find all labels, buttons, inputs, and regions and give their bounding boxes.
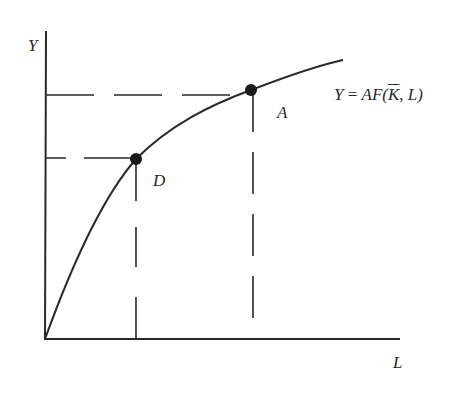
eq-equals: =	[343, 85, 361, 104]
curve-equation-label: Y = AF(K, L)	[334, 86, 423, 103]
production-function-diagram	[0, 0, 470, 396]
point-a-marker	[245, 84, 257, 96]
eq-arg: L	[408, 85, 417, 104]
y-axis-label: Y	[28, 37, 37, 54]
point-d-marker	[130, 153, 142, 165]
point-d-label: D	[153, 172, 165, 189]
y-axis	[45, 31, 46, 339]
production-curve	[45, 60, 343, 339]
eq-func: AF(	[362, 85, 388, 104]
eq-kbar: K	[388, 85, 399, 104]
point-a-label: A	[277, 104, 287, 121]
x-axis-label: L	[393, 354, 402, 371]
eq-close: )	[417, 85, 423, 104]
eq-sep: ,	[399, 85, 408, 104]
